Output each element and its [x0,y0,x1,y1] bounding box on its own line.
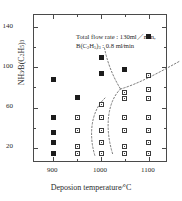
data-point-open [146,87,151,92]
tick-mark [125,15,126,17]
data-point-open [146,96,151,101]
tick-mark [77,159,78,161]
tick-mark [34,67,38,68]
tick-mark [77,15,78,17]
y-axis-title: NH3∕B(C2H5)3 [17,0,26,128]
tick-mark [125,159,126,161]
tick-mark [162,108,166,109]
figure: NH3∕B(C2H5)3 Deposion temperature∕°C Tot… [0,0,182,201]
tick-mark [34,108,38,109]
data-point-open [122,90,127,95]
y-tick-label: 20 [0,143,13,150]
tick-mark [34,27,38,28]
data-point-open [75,128,80,133]
data-point-filled [146,34,151,39]
tick-mark [149,15,150,19]
y-tick-label: 140 [0,23,13,30]
data-point-filled [122,67,127,72]
data-point-filled [75,95,80,100]
tick-mark [53,15,54,19]
data-point-open [146,115,151,120]
tick-mark [34,128,36,129]
data-point-open [146,128,151,133]
tick-mark [149,157,150,161]
data-point-open [146,73,151,78]
tick-mark [162,67,166,68]
data-point-filled [51,115,56,120]
data-point-open [99,151,104,156]
data-point-open [122,151,127,156]
data-point-filled [51,130,56,135]
x-tick-label: 900 [35,167,69,174]
x-axis-title: Deposion temperature∕°C [0,183,182,192]
data-point-open [99,102,104,107]
tick-mark [164,128,166,129]
plot-area: Total flow rate : 130ml／min, B(C2H5)3 : … [33,14,167,162]
tick-mark [53,157,54,161]
data-point-open [122,144,127,149]
inner-c-boundary [108,89,120,155]
tick-mark [164,87,166,88]
data-point-filled [51,140,56,145]
data-point-open [75,115,80,120]
data-point-open [75,151,80,156]
data-point-open [99,115,104,120]
y-tick-label: 60 [0,103,13,110]
data-point-filled [51,77,56,82]
data-point-filled [99,71,104,76]
tick-mark [34,148,38,149]
tick-mark [162,148,166,149]
data-point-filled [99,55,104,60]
tick-mark [164,47,166,48]
tick-mark [101,15,102,19]
tick-mark [162,27,166,28]
data-point-open [146,151,151,156]
x-tick-label: 1000 [83,167,117,174]
x-tick-label: 1100 [131,167,165,174]
tick-mark [34,47,36,48]
upper-left-boundary [105,48,121,89]
data-point-filled [51,151,56,156]
tick-mark [101,157,102,161]
data-point-open [99,128,104,133]
data-point-open [122,128,127,133]
data-point-open [122,96,127,101]
y-tick-label: 100 [0,63,13,70]
data-point-open [146,140,151,145]
tick-mark [34,87,36,88]
data-point-open [99,140,104,145]
data-point-open [122,115,127,120]
data-point-open [75,144,80,149]
